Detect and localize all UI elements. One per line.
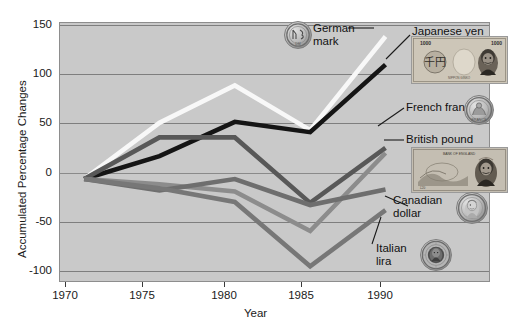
- british-pound-note-art: BANK OF ENGLAND £20: [412, 148, 507, 192]
- canadian-dollar-coin-art: [457, 193, 487, 223]
- canadian-dollar-coin-icon: [456, 192, 488, 224]
- xtick-label-1985: 1985: [271, 290, 331, 302]
- svg-text:BANK OF ENGLAND: BANK OF ENGLAND: [443, 152, 476, 156]
- xtick-label-1975: 1975: [112, 290, 172, 302]
- annotation-italian-lira: Italian lira: [376, 242, 407, 268]
- xtick-mark-1975: [142, 282, 143, 287]
- ytick-label-neg100: -100: [0, 265, 52, 277]
- chart-root: 150 100 50 0 -50 -100 Accumulated Percen…: [0, 0, 511, 326]
- xtick-mark-1980: [224, 282, 225, 287]
- svg-text:1000: 1000: [491, 40, 502, 46]
- french-franc-coin-art: FRANCS: [465, 96, 493, 124]
- xtick-label-1990: 1990: [350, 290, 410, 302]
- ytick-label-150: 150: [0, 19, 52, 31]
- italian-lira-coin-art: [421, 240, 451, 270]
- british-pound-note-icon: BANK OF ENGLAND £20: [411, 147, 508, 193]
- xtick-mark-1970: [65, 282, 66, 287]
- italian-lira-coin-icon: [420, 239, 452, 271]
- svg-text:千円: 千円: [424, 56, 446, 69]
- svg-text:FRANCS: FRANCS: [472, 118, 487, 122]
- series-line-japanese-yen: [84, 65, 385, 179]
- japanese-yen-note-art: 1000 1000 千円 NIPPON GINKO: [412, 37, 507, 83]
- svg-text:£20: £20: [420, 186, 426, 190]
- svg-text:1000: 1000: [420, 40, 431, 46]
- y-axis-title: Accumulated Percentage Changes: [16, 80, 28, 258]
- german-mark-coin-art: DM: [285, 22, 311, 48]
- xtick-label-1970: 1970: [35, 290, 95, 302]
- annotation-british-pound: British pound: [406, 133, 473, 146]
- xtick-mark-1985: [301, 282, 302, 287]
- xtick-mark-1990: [380, 282, 381, 287]
- annotation-german-mark: German mark: [313, 22, 355, 48]
- annotation-french-franc: French franc: [406, 101, 471, 114]
- svg-text:NIPPON GINKO: NIPPON GINKO: [448, 76, 471, 80]
- japanese-yen-note-icon: 1000 1000 千円 NIPPON GINKO: [411, 36, 508, 84]
- xtick-label-1980: 1980: [194, 290, 254, 302]
- x-axis-title: Year: [0, 307, 511, 319]
- french-franc-coin-icon: FRANCS: [464, 95, 494, 125]
- ytick-label-100: 100: [0, 68, 52, 80]
- annotation-canadian-dollar: Canadian dollar: [393, 194, 442, 220]
- german-mark-coin-icon: DM: [284, 21, 312, 49]
- svg-text:DM: DM: [295, 42, 300, 46]
